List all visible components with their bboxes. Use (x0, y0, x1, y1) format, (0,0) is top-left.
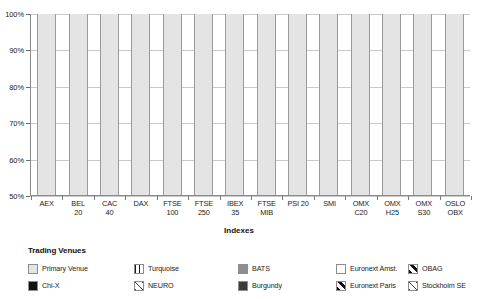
stacked-bar[interactable] (69, 14, 88, 195)
bar-segment-primary (38, 14, 55, 195)
x-axis-label-line2: 40 (94, 209, 125, 218)
x-axis-label-line2: OBX (439, 209, 470, 218)
bar-segment-primary (352, 14, 369, 195)
stacked-bar[interactable] (319, 14, 338, 195)
bar-segment-primary (320, 14, 337, 195)
legend-item-bats[interactable]: BATS (238, 260, 336, 277)
x-axis-line (30, 195, 470, 196)
x-axis-label: OMXC20 (345, 200, 376, 217)
legend-swatch-chix (28, 281, 38, 291)
legend-swatch-neuro (134, 281, 144, 291)
bar-segment-primary (226, 14, 243, 195)
legend-label: Euronext Amst. (350, 264, 397, 273)
x-axis-title: Indexes (0, 226, 478, 235)
x-axis-label: CAC40 (94, 200, 125, 217)
bar-slot (125, 14, 156, 195)
bar-segment-primary (414, 14, 431, 195)
legend-label: Chi-X (42, 281, 59, 290)
legend-item-euronext-paris[interactable]: Euronext Paris (336, 277, 408, 294)
x-axis-label-line2: H25 (377, 209, 408, 218)
bar-slot (62, 14, 93, 195)
legend-item-obag[interactable]: OBAG (408, 260, 472, 277)
bar-segment-primary (132, 14, 149, 195)
legend-swatch-obag (408, 264, 418, 274)
bar-segment-primary (446, 14, 463, 195)
bar-segment-primary (289, 14, 306, 195)
x-axis-label: OMXH25 (377, 200, 408, 217)
bar-segment-primary (383, 14, 400, 195)
bar-slot (94, 14, 125, 195)
x-axis-labels: AEXBEL20CAC40DAXFTSE100FTSE250IBEX35FTSE… (31, 200, 471, 217)
stacked-bar[interactable] (225, 14, 244, 195)
legend-item-euronext-amst[interactable]: Euronext Amst. (336, 260, 408, 277)
x-axis-label: BEL20 (62, 200, 93, 217)
x-axis-label: FTSEMIB (251, 200, 282, 217)
bar-slot (313, 14, 344, 195)
x-axis-label-line1: DAX (125, 200, 156, 209)
x-axis-label: DAX (125, 200, 156, 217)
x-axis-label: PSI 20 (282, 200, 313, 217)
bar-slot (251, 14, 282, 195)
x-axis-label-line1: SMI (314, 200, 345, 209)
stacked-bar[interactable] (194, 14, 213, 195)
stacked-bar[interactable] (257, 14, 276, 195)
legend-item-primary[interactable]: Primary Venue (28, 260, 134, 277)
legend-label: Stockholm SE (422, 281, 466, 290)
x-axis-tick (471, 196, 472, 200)
x-axis-label: AEX (31, 200, 62, 217)
x-axis-label: FTSE100 (157, 200, 188, 217)
legend-label: Euronext Paris (350, 281, 396, 290)
stacked-bar[interactable] (288, 14, 307, 195)
bar-slot (439, 14, 470, 195)
bar-segment-primary (258, 14, 275, 195)
gridline (30, 196, 470, 197)
x-axis-label-line2: C20 (345, 209, 376, 218)
bar-segment-primary (164, 14, 181, 195)
x-axis-label-line2: 250 (188, 209, 219, 218)
bar-slot (219, 14, 250, 195)
x-axis-label-line2: S30 (408, 209, 439, 218)
stacked-bar[interactable] (351, 14, 370, 195)
legend-item-neuro[interactable]: NEURO (134, 277, 238, 294)
legend-item-stockholm[interactable]: Stockholm SE (408, 277, 472, 294)
bar-slot (31, 14, 62, 195)
legend-swatch-bats (238, 264, 248, 274)
bar-slot (156, 14, 187, 195)
bar-slot (407, 14, 438, 195)
y-axis-tick-label: 90% (9, 46, 24, 55)
plot-area (30, 14, 470, 196)
x-axis-label: OSLOOBX (439, 200, 470, 217)
legend-swatch-primary (28, 264, 38, 274)
legend-swatch-stockholm (408, 281, 418, 291)
legend-label: Burgundy (252, 281, 282, 290)
legend-title: Trading Venues (28, 246, 86, 255)
bar-slot (376, 14, 407, 195)
x-axis-label: SMI (314, 200, 345, 217)
bar-segment-primary (101, 14, 118, 195)
bar-slot (282, 14, 313, 195)
legend-label: OBAG (422, 264, 442, 273)
legend-label: NEURO (148, 281, 173, 290)
x-axis-label-line2: 35 (220, 209, 251, 218)
stacked-bar[interactable] (37, 14, 56, 195)
stacked-bar[interactable] (413, 14, 432, 195)
legend-label: BATS (252, 264, 270, 273)
legend-item-turquoise[interactable]: Turquoise (134, 260, 238, 277)
x-axis-label-line1: PSI 20 (282, 200, 313, 209)
y-axis-tick-label: 50% (9, 192, 24, 201)
bar-slot (345, 14, 376, 195)
stacked-bar-chart: 50%60%70%80%90%100% AEXBEL20CAC40DAXFTSE… (0, 0, 478, 299)
stacked-bar[interactable] (100, 14, 119, 195)
stacked-bar[interactable] (445, 14, 464, 195)
legend-swatch-burgundy (238, 281, 248, 291)
legend-item-burgundy[interactable]: Burgundy (238, 277, 336, 294)
legend-swatch-turquoise (134, 264, 144, 274)
legend-label: Primary Venue (42, 264, 88, 273)
x-axis-label: OMXS30 (408, 200, 439, 217)
x-axis-label: IBEX35 (220, 200, 251, 217)
stacked-bar[interactable] (382, 14, 401, 195)
legend: Primary VenueChi-XTurquoiseNEUROBATSBurg… (28, 260, 472, 294)
stacked-bar[interactable] (163, 14, 182, 195)
stacked-bar[interactable] (131, 14, 150, 195)
legend-item-chix[interactable]: Chi-X (28, 277, 134, 294)
